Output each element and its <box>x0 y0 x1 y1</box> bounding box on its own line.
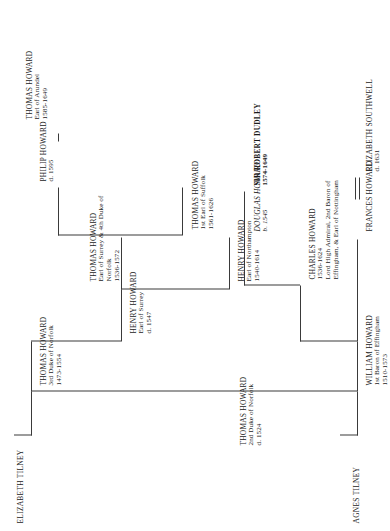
connector-tick-elizabeth <box>14 434 32 435</box>
node-dates: 1473-1554 <box>56 316 64 385</box>
connector-marriage-upper <box>355 177 356 199</box>
node-dates: d. 1547 <box>146 271 154 333</box>
node-henry-howard-earl-surrey[interactable]: HENRY HOWARD Earl of Surrey d. 1547 <box>130 271 154 333</box>
spouse-label-elizabeth-tilney: ELIZABETH TILNEY <box>16 449 25 523</box>
node-title: Earl of Surrey & 4th Duke of Norfolk <box>98 195 114 281</box>
node-dates: 1510-1573 <box>382 314 390 385</box>
connector-philip-to-arundel <box>58 133 59 141</box>
node-william-howard[interactable]: WILLIAM HOWARD 1st Baron of Effingham 15… <box>366 314 390 385</box>
connector-to-henry-northampton <box>229 237 230 289</box>
node-philip-howard[interactable]: PHILIP HOWARD d. 1595 <box>40 121 56 181</box>
connector-william-to-charles <box>300 285 301 341</box>
node-thomas-howard-earl-suffolk[interactable]: THOMAS HOWARD 1st Earl of Suffolk 1561-1… <box>192 160 216 229</box>
node-sir-robert-dudley[interactable]: SIR ROBERT DUDLEY 1574-1649 <box>254 103 270 185</box>
connector-2nd-to-william <box>357 341 358 391</box>
node-dates: d. 1524 <box>256 376 264 445</box>
node-elizabeth-southwell[interactable]: ELIZABETH SOUTHWELL d. 1631 <box>366 79 382 171</box>
node-thomas-howard-4th-duke[interactable]: THOMAS HOWARD Earl of Surrey & 4th Duke … <box>90 161 122 281</box>
connector-4th-to-suffolk <box>182 187 183 235</box>
connector-4th-to-philip <box>58 187 59 235</box>
connector-tick-agnes <box>340 434 358 435</box>
connector-agnes-to-thomas2 <box>357 391 358 435</box>
node-thomas-howard-earl-arundel[interactable]: THOMAS HOWARD Earl of Arundel 1585-1649 <box>26 50 50 119</box>
node-dates: 1574-1649 <box>262 103 270 185</box>
connector-2nd-to-3rd-duke <box>31 341 32 391</box>
node-dates: 1585-1649 <box>42 50 50 119</box>
node-thomas-howard-2nd-duke[interactable]: THOMAS HOWARD 2nd Duke of Norfolk d. 152… <box>240 376 264 445</box>
connector-elizabeth-to-thomas2 <box>31 391 32 435</box>
spouse-label-agnes-tilney: AGNES TILNEY <box>352 466 361 523</box>
node-charles-howard[interactable]: CHARLES HOWARD 1536-1624 Lord High Admir… <box>309 131 341 279</box>
connector-marriage-lower <box>359 177 360 199</box>
node-dates: d. 1595 <box>48 121 56 181</box>
node-thomas-howard-3rd-duke[interactable]: THOMAS HOWARD 3rd Duke of Norfolk 1473-1… <box>40 316 64 385</box>
connector-charles-spine <box>244 284 300 285</box>
connector-spine-2nd-duke <box>31 390 357 391</box>
connector-william-to-frances <box>357 239 358 341</box>
connector-william-spine <box>300 340 357 341</box>
node-dates: d. 1631 <box>374 79 382 171</box>
node-dates: 1536-1572 <box>114 161 122 281</box>
node-dates: 1561-1626 <box>208 160 216 229</box>
node-title: Lord High Admiral, 2nd Baron of Effingha… <box>325 175 341 279</box>
connector-3rd-to-henry-surrey <box>121 289 122 341</box>
